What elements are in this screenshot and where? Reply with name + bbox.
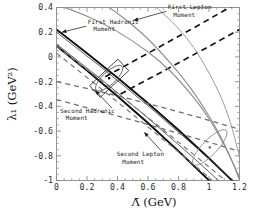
annotation-second-lepton-moment-line2: Moment bbox=[122, 159, 144, 165]
x-tick-label: 1 bbox=[207, 182, 212, 192]
y-tick-label: -0.8 bbox=[33, 151, 53, 161]
y-tick-label: 0 bbox=[48, 52, 53, 62]
data-series-layer bbox=[57, 2, 240, 188]
x-axis-label: Λ̄ (GeV) bbox=[130, 195, 176, 209]
y-axis-label: λ₁ (GeV²) bbox=[5, 67, 19, 120]
y-tick-label: 0.2 bbox=[38, 27, 53, 37]
y-tick-label: -0.6 bbox=[33, 126, 53, 136]
scientific-plot: 00.20.40.60.811.20.40.20-0.2-0.4-0.6-0.8… bbox=[0, 0, 253, 218]
annotation-second-lepton-moment: Second Lepton bbox=[117, 151, 165, 158]
annotation-second-hadronic-moment-line2: Moment bbox=[66, 115, 88, 121]
annotation-first-lepton-moment: First Lepton bbox=[168, 4, 212, 11]
x-tick-label: 0.8 bbox=[171, 182, 186, 192]
x-tick-label: 0 bbox=[54, 182, 59, 192]
x-tick-label: 1.2 bbox=[232, 182, 247, 192]
y-tick-label: -0.2 bbox=[33, 77, 53, 87]
x-tick-label: 0.4 bbox=[110, 182, 125, 192]
series-lepton-curve-third bbox=[151, 3, 239, 159]
series-first-lepton-dashed-lower bbox=[121, 30, 240, 95]
annotation-first-hadronic-moment: First Hadronic bbox=[88, 19, 139, 25]
marker-best-fit-point-left bbox=[108, 77, 110, 79]
annotation-second-hadronic-moment: Second Hadronic bbox=[60, 108, 115, 114]
x-tick-label: 0.2 bbox=[80, 182, 95, 192]
annotation-first-hadronic-moment-line2: Moment bbox=[93, 26, 115, 32]
y-tick-label: 0.4 bbox=[38, 2, 53, 12]
annotation-arrowhead-first-hadronic-moment bbox=[62, 29, 67, 33]
x-tick-label: 0.6 bbox=[141, 182, 156, 192]
annotation-first-lepton-moment-line2: Moment bbox=[173, 12, 195, 18]
figure-root: 00.20.40.60.811.20.40.20-0.2-0.4-0.6-0.8… bbox=[0, 0, 253, 218]
marker-best-fit-point-right bbox=[209, 146, 211, 148]
y-tick-label: -0.4 bbox=[33, 101, 53, 111]
y-tick-label: -1 bbox=[43, 175, 53, 185]
